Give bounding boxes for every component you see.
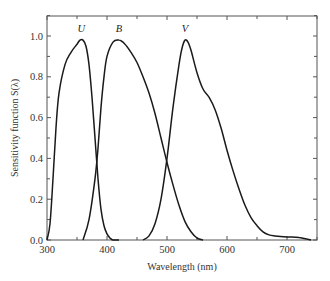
- x-tick-label: 400: [99, 244, 115, 255]
- x-tick-label: 700: [279, 244, 295, 255]
- y-tick-label: 0.4: [30, 153, 44, 164]
- x-tick-label: 600: [219, 244, 235, 255]
- x-tick-label: 500: [159, 244, 175, 255]
- curve-v: [143, 40, 311, 240]
- y-tick-label: 0.6: [30, 112, 43, 123]
- x-axis-title: Wavelength (nm): [147, 261, 216, 273]
- curve-label-v: V: [182, 23, 190, 34]
- curve-u: [47, 39, 119, 240]
- y-tick-label: 1.0: [30, 31, 43, 42]
- curve-label-u: U: [77, 23, 86, 34]
- y-tick-label: 0.0: [30, 235, 43, 246]
- sensitivity-chart: 3004005006007000.00.20.40.60.81.0 UBV Wa…: [0, 0, 330, 281]
- curve-label-b: B: [116, 23, 123, 34]
- y-tick-label: 0.8: [30, 71, 43, 82]
- x-tick-label: 300: [39, 244, 55, 255]
- curves: [47, 39, 311, 240]
- y-axis-title: Sensitivity function S(λ): [9, 79, 21, 177]
- y-tick-label: 0.2: [30, 194, 43, 205]
- curve-labels: UBV: [77, 23, 189, 34]
